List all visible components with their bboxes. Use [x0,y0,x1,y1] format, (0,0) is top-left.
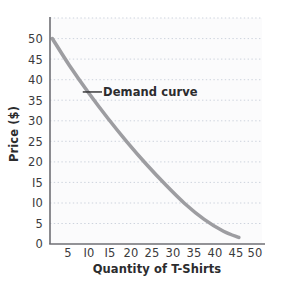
y-tick-label-0: 0 [17,237,43,251]
demand-curve-annotation-label: Demand curve [103,85,198,99]
y-tick-label-45: 45 [17,53,43,67]
y-axis-title: Price ($) [7,99,21,169]
x-tick-label-50: 50 [243,246,267,260]
x-axis-title: Quantity of T-Shirts [49,262,265,276]
y-tick-label-15: I5 [17,176,43,190]
y-tick-label-50: 50 [17,32,43,46]
demand-curve-chart: 50 45 40 35 30 25 20 I5 I0 5 0 5 I0 I5 2… [0,0,282,288]
y-tick-label-5: 5 [17,217,43,231]
y-tick-label-10: I0 [17,196,43,210]
y-tick-label-40: 40 [17,73,43,87]
plot-area-background [50,18,262,244]
